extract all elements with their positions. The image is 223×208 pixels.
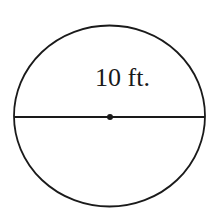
center-point (107, 114, 113, 120)
diameter-label: 10 ft. (95, 63, 150, 92)
circle-diagram: 10 ft. (0, 0, 223, 208)
